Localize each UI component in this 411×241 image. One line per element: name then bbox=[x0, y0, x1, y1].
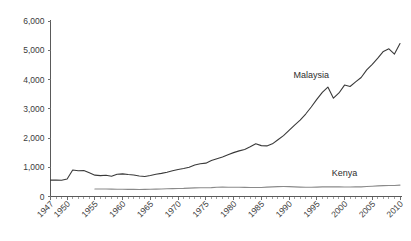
y-tick-label: 5,000 bbox=[23, 45, 45, 55]
y-tick-label: 1,000 bbox=[23, 162, 45, 172]
x-tick-label: 1960 bbox=[107, 199, 128, 220]
x-tick-label: 1995 bbox=[301, 199, 322, 220]
x-tick-label: 1955 bbox=[79, 199, 100, 220]
x-tick-label: 2000 bbox=[329, 199, 350, 220]
series-line-malaysia bbox=[51, 44, 401, 181]
x-tick-label: 1950 bbox=[52, 199, 73, 220]
y-tick-label: 0 bbox=[40, 192, 45, 202]
series-label-kenya: Kenya bbox=[332, 168, 358, 178]
series-line-kenya bbox=[95, 185, 400, 189]
chart-canvas: 6,0005,0004,0003,0002,0001,0000 19471950… bbox=[0, 0, 411, 241]
y-tick-label: 4,000 bbox=[23, 75, 45, 85]
line-chart: 6,0005,0004,0003,0002,0001,0000 19471950… bbox=[0, 0, 411, 241]
x-tick-label: 1970 bbox=[163, 199, 184, 220]
y-tick-label: 3,000 bbox=[23, 104, 45, 114]
y-axis-group: 6,0005,0004,0003,0002,0001,0000 bbox=[23, 16, 50, 202]
x-tick-label: 2010 bbox=[384, 199, 405, 220]
x-tick-label: 1980 bbox=[218, 199, 239, 220]
x-tick-label: 2005 bbox=[357, 199, 378, 220]
y-tick-label: 2,000 bbox=[23, 133, 45, 143]
x-tick-label: 1985 bbox=[246, 199, 267, 220]
x-axis-tick-labels: 1947195019551960196519701975198019851990… bbox=[35, 199, 405, 220]
series-label-malaysia: Malaysia bbox=[293, 70, 329, 80]
y-axis-tick-labels: 6,0005,0004,0003,0002,0001,0000 bbox=[23, 16, 45, 202]
x-axis-ticks bbox=[51, 197, 401, 201]
x-tick-label: 1947 bbox=[35, 199, 56, 220]
x-tick-label: 1990 bbox=[274, 199, 295, 220]
x-tick-label: 1965 bbox=[135, 199, 156, 220]
x-axis-group: 1947195019551960196519701975198019851990… bbox=[35, 197, 405, 220]
x-tick-label: 1975 bbox=[190, 199, 211, 220]
y-tick-label: 6,000 bbox=[23, 16, 45, 26]
